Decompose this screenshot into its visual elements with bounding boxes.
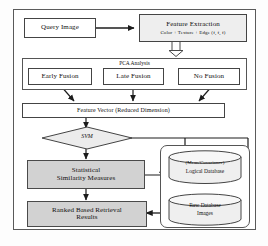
raw-database-label-2: Images [167, 210, 243, 216]
node-query-image[interactable]: Query Image [24, 18, 96, 38]
node-feature-vector[interactable]: Feature Vector (Reduced Dimension) [22, 103, 225, 118]
node-logical-database[interactable] [167, 150, 243, 184]
diagram-canvas: Query Image Feature Extraction Color + T… [0, 0, 268, 246]
logical-database-label-1: (Mean/Covariance) [167, 160, 243, 165]
node-statistical-similarity-measures[interactable]: Statistical Similarity Measures [27, 160, 145, 189]
logical-database-label-2: Logical Database [167, 168, 243, 174]
pca-analysis-caption: PCA Analysis [22, 60, 247, 66]
node-svm-label: SVM [40, 133, 134, 139]
node-late-fusion[interactable]: Late Fusion [103, 68, 164, 85]
node-ranked-based-retrieval-results[interactable]: Ranked Based Retrieval Results [27, 201, 147, 227]
raw-database-label-1: Raw Database [167, 202, 243, 208]
node-early-fusion[interactable]: Early Fusion [28, 68, 92, 85]
node-no-fusion[interactable]: No Fusion [178, 68, 240, 85]
node-feature-extraction[interactable]: Feature Extraction Color + Texture + Edg… [139, 14, 247, 42]
